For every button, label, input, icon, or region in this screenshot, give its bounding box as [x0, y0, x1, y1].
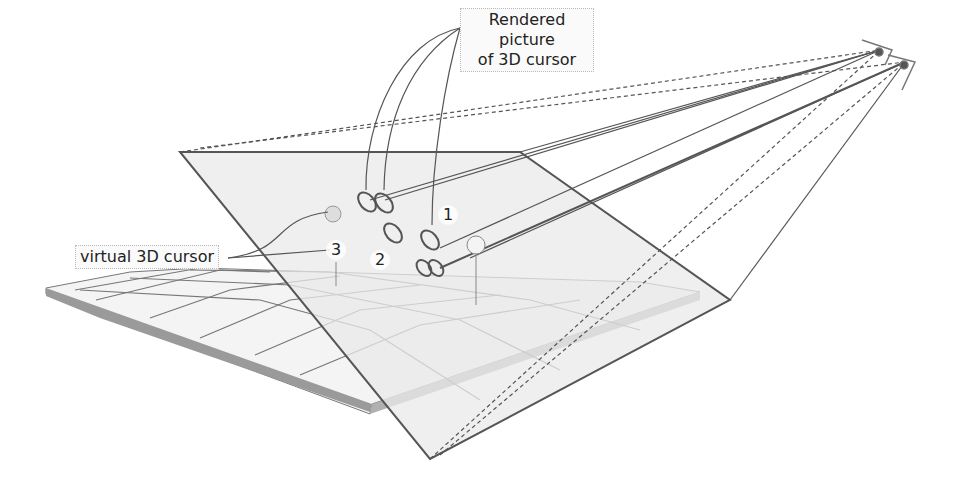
marker-1: 1 [438, 205, 458, 225]
virtual-cursor-label: virtual 3D cursor [75, 245, 219, 269]
camera-icons [862, 40, 915, 90]
rendered-picture-label: Rendered picture of 3D cursor [460, 8, 594, 72]
label-line-1: Rendered picture [465, 10, 589, 50]
label-line-2: of 3D cursor [465, 50, 589, 70]
marker-2: 2 [370, 250, 390, 270]
marker-3: 3 [326, 240, 346, 260]
diagram-canvas [0, 0, 954, 482]
